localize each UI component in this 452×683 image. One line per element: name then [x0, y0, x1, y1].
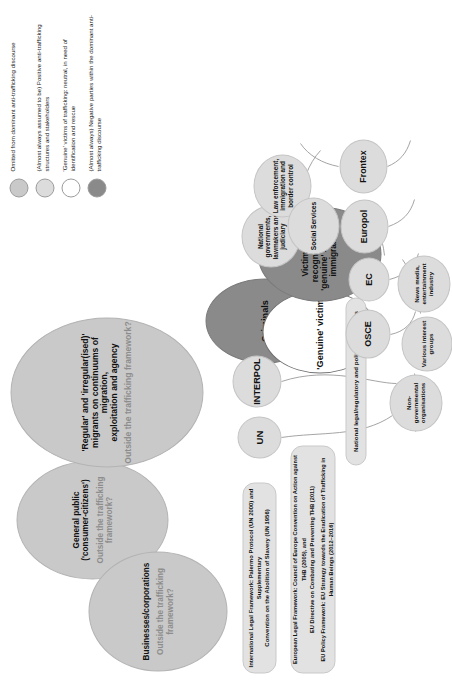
legend-text-negative: (Almost always) Negative parties within …	[86, 7, 101, 171]
bubble-migrants-subtitle: Outside the trafficking framework?	[123, 321, 133, 463]
bubble-law-enforcement-line3: border control	[286, 164, 293, 208]
bubble-ngo-line1: Non-governmental	[405, 377, 419, 428]
bubble-social-services[interactable]: Social Services	[287, 197, 339, 254]
bubble-national-governments-line2: governments,	[263, 215, 270, 257]
bubble-law-enforcement-line2: immigration and	[278, 161, 285, 211]
legend-swatch-positive	[35, 178, 54, 197]
bubble-general-public-subtitle-line2: framework?	[104, 496, 113, 542]
legend-item-positive: (Almost always assumed to be) Positive a…	[34, 7, 54, 197]
bubble-migrants-title-line2: migrants on continuums of migration,	[90, 320, 109, 464]
box-international-line2: Convention on the Abolition of Slavery (…	[263, 509, 271, 646]
bubble-osce-label: OSCE	[362, 321, 372, 347]
legend-swatch-omitted	[9, 178, 28, 197]
box-international-legal-framework[interactable]: International Legal Framework: Palermo P…	[242, 482, 276, 673]
legend-item-genuine-victims: 'Genuine' victims of trafficking: neutra…	[60, 7, 80, 197]
bubble-general-public-title-line1: General public	[71, 491, 80, 548]
box-european-line2: EU Directive on Combating and Preventing…	[307, 486, 315, 633]
box-international-line1: International Legal Framework: Palermo P…	[247, 485, 263, 670]
bubble-ec[interactable]: EC	[348, 257, 389, 301]
legend: Omitted from dominant anti-trafficking d…	[8, 7, 106, 197]
bubble-general-public-title-line2: ('consumer-citizens')	[80, 479, 89, 560]
bubble-un[interactable]: UN	[237, 416, 281, 458]
bubble-un-label: UN	[254, 430, 265, 444]
bubble-news-media-line3: industry	[427, 271, 434, 295]
box-european-line1: European Legal Framework: Council of Eur…	[290, 448, 307, 670]
box-european-line3: EU Policy Framework: EU Strategy towards…	[318, 448, 335, 670]
link-un-national	[281, 415, 392, 437]
link-europol-down	[388, 199, 414, 226]
legend-text-genuine-victims: 'Genuine' victims of trafficking: neutra…	[60, 7, 75, 171]
legend-text-omitted: Omitted from dominant anti-trafficking d…	[8, 42, 16, 171]
legend-text-positive: (Almost always assumed to be) Positive a…	[34, 7, 49, 171]
bubble-europol[interactable]: Europol	[340, 199, 388, 253]
bubble-ngo[interactable]: Non-governmental organisations	[389, 374, 442, 431]
bubble-migrants[interactable]: 'Regular' and 'irregular(ised)' migrants…	[10, 317, 203, 467]
bubble-news-media[interactable]: News media, entertainment industry	[397, 255, 450, 312]
bubble-frontex[interactable]: Frontex	[339, 139, 387, 193]
bubble-businesses-subtitle-line1: Outside the trafficking	[155, 568, 164, 655]
bubble-migrants-title-line3: exploitation and agency	[109, 343, 119, 441]
bubble-interest-groups-line1: Various interest	[420, 320, 427, 366]
bubble-genuine-victims-label: 'Genuine' victims	[314, 294, 324, 369]
legend-item-omitted: Omitted from dominant anti-trafficking d…	[8, 7, 28, 197]
legend-item-negative: (Almost always) Negative parties within …	[86, 7, 106, 197]
bubble-general-public-subtitle-line1: Outside the trafficking	[95, 476, 104, 563]
bubble-businesses-corporations[interactable]: Businesses/corporations Outside the traf…	[88, 551, 227, 671]
bubble-europol-label: Europol	[359, 209, 369, 242]
box-european-legal-framework[interactable]: European Legal Framework: Council of Eur…	[290, 445, 335, 673]
bubble-ngo-line2: organisations	[419, 382, 426, 423]
bubble-interest-groups-line2: groups	[427, 333, 434, 354]
bubble-interest-groups[interactable]: Various interest groups	[401, 316, 452, 371]
bubble-frontex-label: Frontex	[358, 150, 368, 182]
bubble-social-services-line1: Social Services	[309, 201, 316, 249]
link-frontex-down	[387, 140, 410, 166]
bubble-interpol-label: INTERPOL	[251, 358, 261, 404]
bubble-migrants-title-line1: 'Regular' and 'irregular(ised)'	[80, 333, 90, 451]
bubble-interpol[interactable]: INTERPOL	[232, 355, 281, 407]
bubble-businesses-subtitle-line2: framework?	[165, 588, 174, 634]
legend-swatch-genuine-victims	[61, 178, 80, 197]
bubble-osce[interactable]: OSCE	[345, 309, 390, 358]
bubble-national-governments-line3: lawmakers and	[271, 213, 278, 259]
legend-swatch-negative	[87, 178, 106, 197]
link-interpol-national	[281, 374, 396, 383]
link-frontex-up	[300, 143, 338, 166]
bubble-national-governments-line4: judiciary	[278, 223, 285, 249]
bubble-law-enforcement-line1: Law enforcement,	[271, 158, 278, 212]
bubble-businesses-title: Businesses/corporations	[141, 562, 150, 660]
bubble-ec-label: EC	[363, 273, 373, 286]
bubble-national-governments-line1: National	[256, 223, 263, 248]
